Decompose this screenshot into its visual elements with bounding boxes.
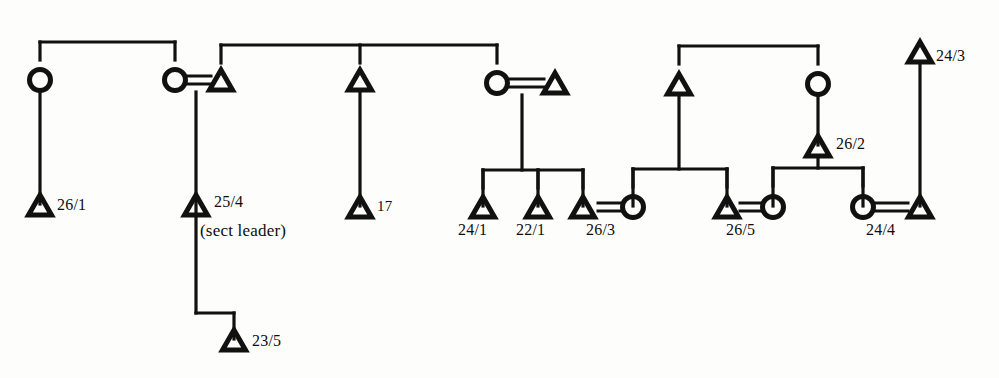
node-label: 26/1 — [57, 197, 86, 213]
node-label: 26/2 — [836, 136, 865, 152]
node-label: 25/4 — [214, 194, 243, 210]
kinship-diagram: 26/125/4(sect leader)1724/122/126/326/52… — [0, 0, 999, 378]
node-label: 24/3 — [936, 48, 965, 64]
kinship-svg-canvas — [0, 0, 999, 378]
sibling-bars-group — [40, 42, 863, 188]
node-label: 26/3 — [586, 222, 615, 238]
node-male-triangle[interactable] — [668, 74, 691, 94]
node-male-triangle[interactable] — [909, 42, 932, 62]
node-label: 26/5 — [726, 222, 755, 238]
node-label: 24/1 — [458, 222, 487, 238]
node-female-circle[interactable] — [165, 70, 186, 91]
node-label: (sect leader) — [200, 222, 286, 239]
node-label: 17 — [377, 199, 392, 214]
node-female-circle[interactable] — [808, 74, 829, 95]
nodes-group — [29, 42, 932, 350]
node-male-triangle[interactable] — [210, 70, 233, 90]
node-label: 22/1 — [516, 222, 545, 238]
node-female-circle[interactable] — [487, 73, 508, 94]
node-male-triangle[interactable] — [544, 73, 567, 93]
node-female-circle[interactable] — [30, 70, 51, 91]
marriage-links-group — [188, 76, 908, 211]
node-male-triangle[interactable] — [349, 70, 372, 90]
node-label: 23/5 — [252, 333, 281, 349]
node-label: 24/4 — [866, 222, 895, 238]
